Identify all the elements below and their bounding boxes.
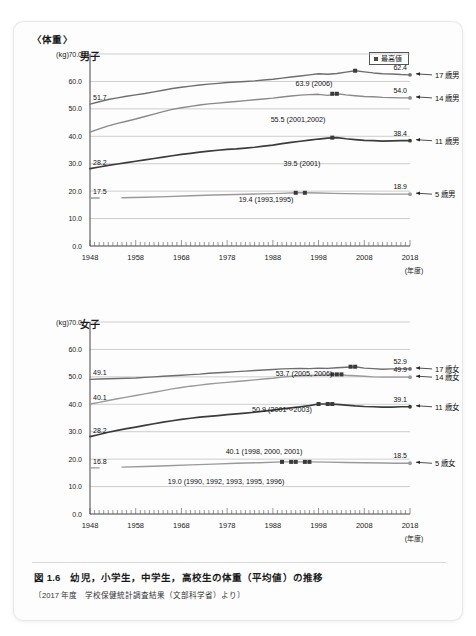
series-label-arrowhead (416, 95, 420, 98)
y-tick-label: 10.0 (68, 215, 82, 222)
y-tick-label: 50.0 (68, 105, 82, 112)
x-tick-label: 1998 (310, 253, 327, 262)
x-tick-label: 1958 (127, 253, 144, 262)
figure-caption: 図 1.6 幼児，小学生，中学生，高校生の体重（平均値）の推移 〔2017 年度… (34, 570, 446, 600)
y-tick-label: 0.0 (72, 243, 82, 250)
x-tick-label: 2018 (402, 253, 419, 262)
peak-marker (335, 372, 339, 376)
series-line (90, 374, 410, 404)
peak-marker (349, 365, 353, 369)
series-line (90, 94, 410, 132)
series-end-value: 39.1 (393, 396, 407, 403)
x-tick-label: 1978 (219, 253, 236, 262)
series-endpoint (408, 73, 412, 77)
peak-annotation: 19.0 (1990, 1992, 1993, 1995, 1996) (168, 477, 285, 486)
peak-marker (353, 69, 357, 73)
y-tick-label: 20.0 (68, 456, 82, 463)
series-label-arrowhead (416, 138, 420, 141)
series-start-value: 28.2 (93, 427, 107, 434)
x-tick-label: 2008 (356, 521, 373, 530)
series-endpoint (408, 375, 412, 379)
series-line (90, 367, 410, 380)
peak-annotation: 50.9 (2001〜2003) (252, 405, 312, 414)
series-endpoint (408, 96, 412, 100)
series-line (90, 71, 410, 104)
page-root: 〈体重〉 (kg) 男子 最高値 0.010.020.030.040.050.0… (0, 0, 476, 636)
y-tick-label: 70.0 (68, 51, 82, 58)
series-start-value: 49.1 (93, 369, 107, 376)
x-tick-label: 1948 (82, 253, 99, 262)
y-tick-label: 20.0 (68, 188, 82, 195)
y-tick-label: 10.0 (68, 483, 82, 490)
series-start-value: 51.7 (93, 94, 107, 101)
peak-marker (303, 460, 307, 464)
series-end-value: 18.9 (393, 183, 407, 190)
series-end-value: 52.9 (393, 358, 407, 365)
peak-marker (330, 92, 334, 96)
peak-marker (303, 191, 307, 195)
series-endpoint (408, 461, 412, 465)
series-endpoint (408, 139, 412, 143)
series-label: 14 歳女 (435, 372, 460, 382)
caption-source: 〔2017 年度 学校保健統計調査結果（文部科学省）より〕 (34, 589, 446, 600)
x-tick-label: 1988 (265, 253, 282, 262)
x-tick-label: 1968 (173, 521, 190, 530)
x-tick-label: 1958 (127, 521, 144, 530)
y-tick-label: 60.0 (68, 78, 82, 85)
x-tick-label: 1968 (173, 253, 190, 262)
series-endpoint (408, 192, 412, 196)
peak-marker (335, 92, 339, 96)
y-tick-label: 30.0 (68, 428, 82, 435)
y-tick-label: 40.0 (68, 133, 82, 140)
peak-marker (289, 460, 293, 464)
peak-marker (280, 460, 284, 464)
x-tick-label: 1988 (265, 521, 282, 530)
series-label-arrowhead (416, 461, 420, 464)
caption-divider (32, 562, 446, 563)
x-axis-unit-label: (年度) (405, 534, 424, 543)
x-tick-label: 1998 (310, 521, 327, 530)
peak-marker (339, 372, 343, 376)
x-axis-unit-label: (年度) (405, 266, 424, 275)
y-tick-label: 30.0 (68, 160, 82, 167)
chart-boys: 0.010.020.030.040.050.060.070.0194819581… (14, 40, 462, 290)
series-end-value: 18.5 (393, 452, 407, 459)
chart-girls: 0.010.020.030.040.050.060.070.0194819581… (14, 308, 462, 558)
series-label-arrowhead (416, 192, 420, 195)
peak-marker (307, 460, 311, 464)
y-tick-label: 60.0 (68, 346, 82, 353)
y-tick-label: 40.0 (68, 401, 82, 408)
peak-marker (330, 136, 334, 140)
series-label: 17 歳男 (435, 70, 459, 80)
x-tick-label: 2018 (402, 521, 419, 530)
series-label: 11 歳女 (435, 402, 460, 412)
series-start-value: 28.2 (93, 159, 107, 166)
series-label-arrowhead (416, 366, 420, 369)
series-label: 14 歳男 (435, 93, 459, 103)
series-end-value: 62.4 (393, 64, 407, 71)
series-label: 11 歳男 (435, 136, 459, 146)
y-tick-label: 70.0 (68, 319, 82, 326)
series-label: 5 歳女 (435, 458, 456, 468)
series-label-arrowhead (416, 375, 420, 378)
series-endpoint (408, 405, 412, 409)
series-end-value: 38.4 (393, 130, 407, 137)
series-end-value: 49.9 (393, 366, 407, 373)
y-tick-label: 0.0 (72, 511, 82, 518)
x-tick-label: 1948 (82, 521, 99, 530)
x-tick-label: 2008 (356, 253, 373, 262)
figure-card: 〈体重〉 (kg) 男子 最高値 0.010.020.030.040.050.0… (14, 22, 462, 620)
series-end-value: 54.0 (393, 87, 407, 94)
peak-marker (353, 365, 357, 369)
series-endpoint (408, 367, 412, 371)
peak-annotation: 39.5 (2001) (284, 159, 321, 168)
peak-marker (330, 402, 334, 406)
peak-annotation: 63.9 (2006) (296, 79, 333, 88)
series-line (122, 462, 410, 467)
peak-annotation: 53.7 (2005, 2006) (276, 369, 333, 378)
peak-marker (317, 402, 321, 406)
x-tick-label: 1978 (219, 521, 236, 530)
series-label-arrowhead (416, 404, 420, 407)
peak-marker (294, 460, 298, 464)
peak-annotation: 40.1 (1998, 2000, 2001) (226, 447, 303, 456)
